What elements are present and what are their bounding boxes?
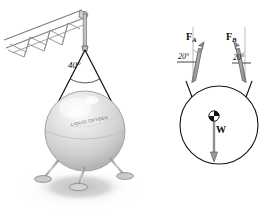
- force-a-subscript: A: [192, 36, 197, 44]
- spherical-tank: [45, 91, 125, 171]
- weight-label: W: [216, 124, 226, 135]
- force-b-angle-label: 20°: [233, 53, 244, 62]
- fbd-cable-stubs: [186, 81, 252, 97]
- physics-figure: 40° LIQUID OXYGEN FA FB 20° 20° W: [0, 0, 265, 219]
- force-b-label: FB: [226, 31, 237, 44]
- hoist-cable: [82, 14, 88, 51]
- force-a-angle-label: 20°: [178, 52, 189, 61]
- sling-angle-label: 40°: [68, 60, 81, 70]
- center-of-gravity-symbol: [209, 111, 219, 121]
- force-arrow-fb: [234, 42, 246, 83]
- angle-arc-40: [70, 79, 100, 83]
- force-b-subscript: B: [232, 36, 237, 44]
- force-a-label: FA: [186, 31, 197, 44]
- crane-boom: [4, 10, 88, 57]
